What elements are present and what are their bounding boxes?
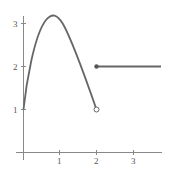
piecewise-function-graph: 1 2 3 3 2 1 xyxy=(0,0,170,174)
y-tick-label-2: 2 xyxy=(13,62,18,72)
x-tick-label-2: 2 xyxy=(94,156,99,166)
open-endpoint-marker xyxy=(94,107,99,112)
y-tick-label-3: 3 xyxy=(13,19,18,29)
curve-series xyxy=(24,15,97,109)
x-tick-label-3: 3 xyxy=(131,156,136,166)
x-tick-label-1: 1 xyxy=(57,156,62,166)
tick-labels: 1 2 3 3 2 1 xyxy=(13,19,136,167)
y-tick-label-1: 1 xyxy=(13,105,18,115)
filled-endpoint-marker xyxy=(94,64,98,68)
